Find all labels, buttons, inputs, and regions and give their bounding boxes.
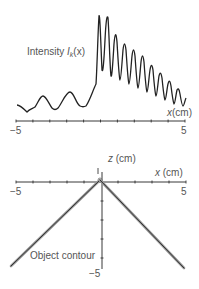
contour-panel: z (cm) x (cm) −5 5 −5 Object contour (10, 153, 187, 279)
intensity-annotation: Intensity Ik(x) (27, 46, 85, 58)
z-axis-label: z (cm) (107, 153, 136, 164)
top-tick-label-min: −5 (10, 125, 22, 136)
bottom-x-axis-label: x (cm) (154, 167, 183, 178)
intensity-panel: −5 5 x(cm) Intensity Ik(x) (10, 16, 192, 136)
contour-label: Object contour (30, 250, 96, 261)
top-x-axis-label: x(cm) (166, 107, 192, 118)
top-tick-label-max: 5 (181, 125, 187, 136)
z-tick-label-min: −5 (89, 268, 101, 279)
bottom-tick-label-min: −5 (10, 186, 22, 197)
intensity-curve (17, 16, 186, 112)
bottom-tick-label-max: 5 (181, 186, 187, 197)
figure: −5 5 x(cm) Intensity Ik(x) (0, 0, 199, 289)
